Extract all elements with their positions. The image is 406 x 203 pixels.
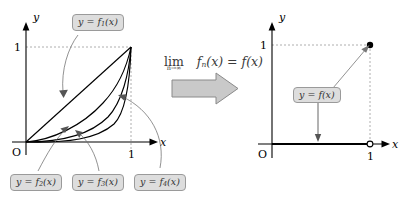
leader-f1 [63, 35, 78, 92]
pointer-fx-arrowhead [315, 134, 321, 142]
tag-f3[interactable]: y = f3(x) [72, 174, 124, 191]
limit-result-arg: (x) [246, 54, 263, 69]
tag-f4[interactable]: y = f4(x) [134, 174, 186, 191]
left-origin-label: O [12, 146, 21, 159]
tag-f2-eq: = [21, 176, 35, 187]
left-y-axis-label: y [32, 11, 40, 24]
left-y-tick-1: 1 [14, 41, 21, 54]
block-arrow-shape [172, 73, 238, 104]
tag-f-arg: (x) [322, 89, 335, 100]
curve-f1 [26, 47, 131, 142]
math-figure-convergence: y x O 1 1 [0, 0, 406, 203]
leader-f1-arrowhead [59, 90, 68, 98]
right-y-axis-arrowhead [269, 22, 276, 31]
left-panel-graph: y x O 1 1 [12, 11, 167, 171]
lim-subscript: n→∞ [164, 65, 184, 72]
tag-f3-eq: = [83, 176, 97, 187]
tag-f1-arg: (x) [105, 16, 118, 27]
leader-fx-arrowhead [361, 45, 369, 53]
left-y-axis-arrowhead [23, 22, 30, 31]
tag-f3-arg: (x) [105, 176, 118, 187]
right-x-tick-1: 1 [367, 150, 374, 163]
right-x-axis-arrowhead [382, 141, 391, 148]
lim-operator: limn→∞ [164, 56, 184, 69]
tag-f4-arg: (x) [167, 176, 180, 187]
tag-f4-eq: = [145, 176, 159, 187]
tag-f2-arg: (x) [43, 176, 56, 187]
right-y-axis-label: y [278, 11, 286, 24]
tag-f-eq: = [304, 89, 318, 100]
left-x-tick-1: 1 [128, 148, 135, 161]
tag-f1[interactable]: y = f1(x) [72, 14, 124, 31]
leader-fx-to-point [333, 49, 366, 88]
open-point-marker [367, 141, 373, 147]
right-y-tick-1: 1 [260, 39, 267, 52]
right-origin-label: O [258, 148, 267, 161]
limit-body-arg: (x) [206, 54, 223, 69]
tag-f[interactable]: y = f(x) [293, 87, 341, 103]
left-x-axis-arrowhead [150, 139, 159, 146]
left-x-axis-label: x [160, 136, 167, 149]
tag-f1-eq: = [83, 16, 97, 27]
limit-equals: = [223, 54, 241, 69]
limit-expression-text: limn→∞ fn(x) = f(x) [164, 56, 263, 69]
leader-f3-arrowhead [75, 130, 83, 138]
right-x-axis-label: x [392, 138, 399, 151]
figure-canvas: y x O 1 1 [0, 0, 406, 203]
tag-f2[interactable]: y = f2(x) [10, 174, 62, 191]
limit-block-arrow [172, 73, 238, 104]
